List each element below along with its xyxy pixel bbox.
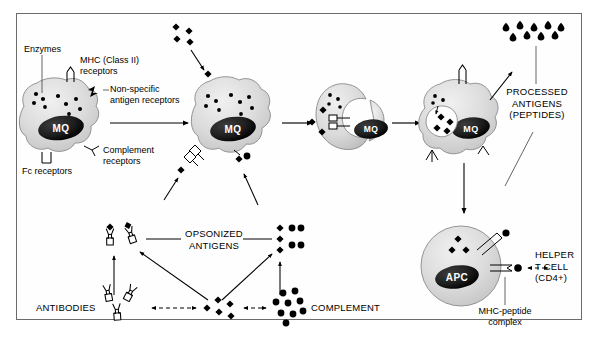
label-antibodies: ANTIBODIES [36, 302, 96, 314]
label-complement: COMPLEMENT [311, 302, 380, 314]
label-processed-antigens: PROCESSED ANTIGENS (PEPTIDES) [500, 86, 574, 121]
immunology-diagram: MQ [0, 0, 599, 347]
label-fc-receptors: Fc receptors [22, 166, 72, 177]
label-mhc-receptors: MHC (Class II) receptors [80, 55, 139, 77]
label-enzymes: Enzymes [24, 44, 61, 55]
label-opsonized-antigens: OPSONIZED ANTIGENS [184, 228, 244, 251]
label-helper-t-cell: HELPER T CELL (CD4+) [535, 249, 574, 284]
label-mhc-peptide-complex: MHC-peptide complex [465, 306, 545, 328]
label-nonspecific-antigen-receptors: Non-specific antigen receptors [110, 84, 180, 106]
label-complement-receptors: Complement receptors [103, 145, 154, 167]
